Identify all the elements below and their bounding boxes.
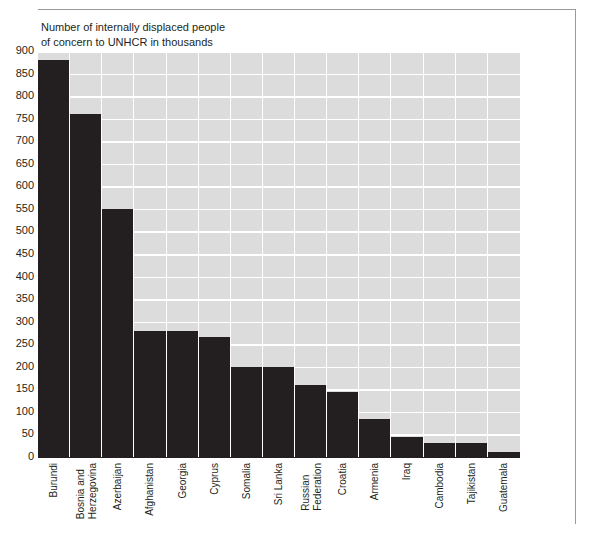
y-axis-tick-label: 200 [0,361,34,372]
x-axis-label-slot: Armenia [359,459,391,537]
y-axis-tick-label: 450 [0,248,34,259]
x-axis-label-slot: Tajikistan [456,459,488,537]
x-axis-tick-label-line: Tajikistan [466,463,478,504]
bar[interactable] [295,385,326,457]
y-axis-tick-label: 700 [0,135,34,146]
x-axis-tick-label: Bosnia andHerzegovina [75,463,98,519]
x-axis-label-slot: Burundi [38,459,70,537]
right-divider-rule [575,9,576,524]
x-axis-tick-label-line: Armenia [370,463,382,500]
x-axis-tick-label-line: Somalia [241,463,253,499]
x-axis-line [38,457,520,459]
x-axis-tick-label-line: Guatemala [498,463,510,512]
x-axis-label-slot: Somalia [231,459,263,537]
bar-slot [231,51,263,457]
x-axis-tick-label-line: Iraq [402,463,414,480]
bar-slot [263,51,295,457]
x-axis-label-slot: Afghanistan [134,459,166,537]
x-axis-tick-label-line: Afghanistan [145,463,157,516]
x-axis-tick-label: Sri Lanka [273,463,285,505]
chart-title: Number of internally displaced people of… [41,20,371,49]
bar[interactable] [327,392,358,457]
bar[interactable] [231,367,262,457]
x-axis-tick-label-line: Russian [300,463,312,511]
x-axis-tick-label: Croatia [337,463,349,495]
x-axis-tick-label: Iraq [402,463,414,480]
bar-slot [488,51,520,457]
x-axis-label-slot: Guatemala [488,459,520,537]
x-axis-tick-label-line: Federation [311,463,323,511]
bar-slot [456,51,488,457]
bar-slot [359,51,391,457]
x-axis-tick-label-line: Azerbaijan [113,463,125,510]
x-axis-tick-label-line: Bosnia and [75,463,87,519]
bar-slot [199,51,231,457]
bar[interactable] [102,209,133,457]
y-axis-tick-label: 150 [0,383,34,394]
y-axis-tick-label: 600 [0,180,34,191]
x-axis-tick-label-line: Cyprus [209,463,221,495]
bar-slot [295,51,327,457]
x-axis-tick-label: Burundi [48,463,60,497]
bar[interactable] [38,60,69,457]
y-axis-tick-label: 800 [0,90,34,101]
y-axis-tick-label: 250 [0,338,34,349]
bar[interactable] [456,443,487,457]
y-axis-tick-label: 50 [0,428,34,439]
x-axis-tick-label-line: Georgia [177,463,189,499]
x-axis-tick-label: Tajikistan [466,463,478,504]
bar-slot [327,51,359,457]
y-axis-tick-label: 900 [0,45,34,56]
plot-area [38,51,520,457]
x-axis-tick-label: Guatemala [498,463,510,512]
y-axis-tick-label: 650 [0,158,34,169]
bar-slot [38,51,70,457]
y-axis-tick-label: 100 [0,406,34,417]
y-axis: 9008508007507006506005505004504003503002… [0,51,34,457]
bar[interactable] [134,331,165,457]
x-axis-labels: BurundiBosnia andHerzegovinaAzerbaijanAf… [38,459,520,537]
bar-slot [134,51,166,457]
x-axis-tick-label: Cambodia [434,463,446,509]
bar[interactable] [263,367,294,457]
y-axis-tick-label: 850 [0,68,34,79]
x-axis-tick-label-line: Burundi [48,463,60,497]
bar[interactable] [391,437,422,457]
bar-slot [391,51,423,457]
y-axis-tick-label: 750 [0,113,34,124]
bar-slot [424,51,456,457]
x-axis-tick-label: Azerbaijan [113,463,125,510]
x-axis-label-slot: Azerbaijan [102,459,134,537]
x-axis-label-slot: Iraq [391,459,423,537]
x-axis-tick-label: RussianFederation [300,463,323,511]
y-axis-tick-label: 400 [0,271,34,282]
x-axis-label-slot: Cyprus [199,459,231,537]
y-axis-tick-label: 550 [0,203,34,214]
x-axis-tick-label-line: Sri Lanka [273,463,285,505]
x-axis-label-slot: RussianFederation [295,459,327,537]
x-axis-tick-label: Cyprus [209,463,221,495]
bar[interactable] [167,331,198,457]
x-axis-label-slot: Cambodia [424,459,456,537]
x-axis-label-slot: Croatia [327,459,359,537]
bar-slot [167,51,199,457]
bar[interactable] [70,114,101,457]
x-axis-label-slot: Bosnia andHerzegovina [70,459,102,537]
x-axis-tick-label-line: Croatia [337,463,349,495]
bar[interactable] [199,337,230,457]
bar-slot [70,51,102,457]
y-axis-tick-label: 300 [0,316,34,327]
bar[interactable] [359,419,390,457]
bar-series [38,51,520,457]
y-axis-tick-label: 500 [0,225,34,236]
y-axis-tick-label: 0 [0,451,34,462]
x-axis-tick-label: Somalia [241,463,253,499]
x-axis-tick-label-line: Herzegovina [86,463,98,519]
bar-slot [102,51,134,457]
x-axis-label-slot: Sri Lanka [263,459,295,537]
x-axis-tick-label: Georgia [177,463,189,499]
x-axis-tick-label: Armenia [370,463,382,500]
bar[interactable] [424,443,455,457]
top-divider-rule [38,9,575,10]
y-axis-tick-label: 350 [0,293,34,304]
